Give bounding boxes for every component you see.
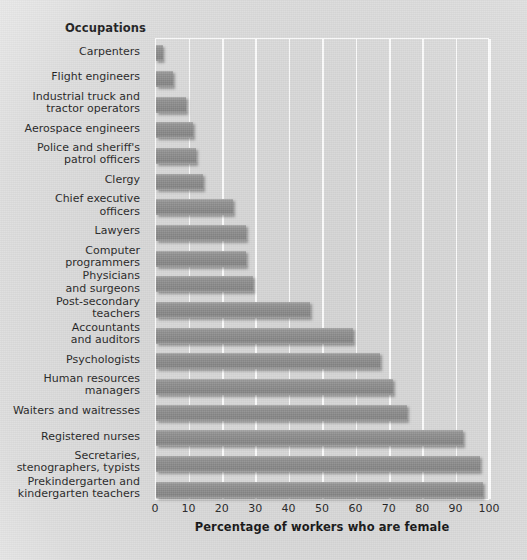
category-label: Computer programmers bbox=[0, 245, 146, 270]
bar bbox=[156, 430, 463, 446]
x-tick-label: 40 bbox=[282, 502, 296, 515]
category-label: Human resources managers bbox=[0, 373, 146, 398]
x-tick-label: 30 bbox=[248, 502, 262, 515]
category-label: Lawyers bbox=[0, 225, 146, 238]
category-label: Carpenters bbox=[0, 46, 146, 59]
bar bbox=[156, 97, 186, 113]
x-tick-label: 80 bbox=[415, 502, 429, 515]
bar bbox=[156, 71, 173, 87]
category-label: Post-secondary teachers bbox=[0, 296, 146, 321]
category-label: Clergy bbox=[0, 174, 146, 187]
x-tick-label: 90 bbox=[449, 502, 463, 515]
chart-figure: Occupations CarpentersFlight engineersIn… bbox=[0, 0, 527, 560]
bar bbox=[156, 482, 483, 498]
category-label: Registered nurses bbox=[0, 431, 146, 444]
x-tick-label: 50 bbox=[315, 502, 329, 515]
gridline bbox=[489, 39, 491, 499]
bar bbox=[156, 302, 310, 318]
bar bbox=[156, 148, 196, 164]
category-label: Prekindergarten and kindergarten teacher… bbox=[0, 476, 146, 501]
x-tick-label: 60 bbox=[348, 502, 362, 515]
bar-series bbox=[156, 39, 488, 499]
x-axis-title: Percentage of workers who are female bbox=[155, 520, 489, 534]
bar bbox=[156, 174, 203, 190]
bar bbox=[156, 225, 246, 241]
bar bbox=[156, 353, 380, 369]
x-tick-label: 100 bbox=[479, 502, 500, 515]
bar bbox=[156, 456, 480, 472]
category-label: Psychologists bbox=[0, 354, 146, 367]
category-label: Industrial truck and tractor operators bbox=[0, 91, 146, 116]
category-label: Flight engineers bbox=[0, 71, 146, 84]
category-label: Aerospace engineers bbox=[0, 123, 146, 136]
x-tick-label: 10 bbox=[181, 502, 195, 515]
x-axis-tick-labels: 0102030405060708090100 bbox=[155, 502, 489, 518]
bar bbox=[156, 276, 253, 292]
bar bbox=[156, 379, 393, 395]
bar bbox=[156, 251, 246, 267]
category-label: Waiters and waitresses bbox=[0, 405, 146, 418]
occupations-column-header: Occupations bbox=[0, 21, 146, 35]
bar bbox=[156, 199, 233, 215]
category-label: Police and sheriff's patrol officers bbox=[0, 142, 146, 167]
x-tick-label: 70 bbox=[382, 502, 396, 515]
category-axis-labels: CarpentersFlight engineersIndustrial tru… bbox=[0, 38, 146, 500]
x-tick-label: 0 bbox=[152, 502, 159, 515]
bar bbox=[156, 328, 353, 344]
bar bbox=[156, 405, 407, 421]
plot-area bbox=[155, 38, 489, 500]
bar bbox=[156, 122, 193, 138]
category-label: Chief executive officers bbox=[0, 193, 146, 218]
category-label: Secretaries, stenographers, typists bbox=[0, 450, 146, 475]
bar bbox=[156, 45, 163, 61]
x-tick-label: 20 bbox=[215, 502, 229, 515]
category-label: Physicians and surgeons bbox=[0, 270, 146, 295]
category-label: Accountants and auditors bbox=[0, 322, 146, 347]
